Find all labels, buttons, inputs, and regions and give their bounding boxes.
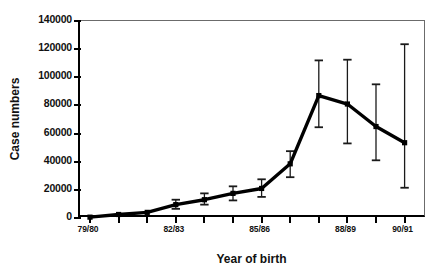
x-axis-tick-label: 82/83 [163, 224, 184, 234]
data-line [90, 96, 405, 218]
y-axis-tick [74, 189, 81, 191]
y-axis-tick [74, 48, 81, 50]
y-axis-tick-label: 20000 [44, 182, 72, 194]
x-axis-tick [232, 217, 234, 223]
y-axis-title: Case numbers [8, 77, 22, 160]
y-axis-tick [74, 76, 81, 78]
data-point-marker [402, 140, 407, 145]
y-axis-tick [74, 217, 81, 219]
error-bars-group [172, 44, 409, 209]
x-axis-tick [346, 217, 348, 223]
y-axis-tick-label: 0 [66, 210, 72, 222]
y-axis-tick-label: 100000 [38, 69, 72, 81]
data-point-marker [316, 93, 321, 98]
y-axis-tick [74, 161, 81, 163]
x-axis-tick [203, 217, 205, 223]
data-point-marker [230, 191, 235, 196]
y-axis-tick-label: 140000 [38, 13, 72, 25]
x-axis-tick [289, 217, 291, 223]
chart-figure: 020000400006000080000100000120000140000 … [0, 0, 435, 278]
data-point-marker [202, 197, 207, 202]
y-axis-tick [74, 20, 81, 22]
data-point-marker [288, 161, 293, 166]
y-axis-tick [74, 133, 81, 135]
y-axis-tick-label: 60000 [44, 126, 72, 138]
data-point-marker [173, 202, 178, 207]
x-axis-tick-label: 90/91 [392, 224, 413, 234]
data-point-marker [345, 101, 350, 106]
y-axis-title-holder: Case numbers [18, 20, 40, 217]
data-point-marker [259, 186, 264, 191]
y-axis-tick-label: 40000 [44, 154, 72, 166]
x-axis-tick [404, 217, 406, 223]
x-axis-tick [261, 217, 263, 223]
x-axis-tick [146, 217, 148, 223]
x-axis-tick [375, 217, 377, 223]
data-point-marker [373, 124, 378, 129]
x-axis-tick-labels: 79/8082/8385/8688/8990/91 [78, 224, 425, 240]
x-axis-tick [175, 217, 177, 223]
plot-area [78, 20, 425, 217]
y-axis-tick-label: 80000 [44, 97, 72, 109]
x-axis-tick-label: 88/89 [335, 224, 356, 234]
data-series-canvas [80, 21, 427, 218]
x-axis-tick [89, 217, 91, 223]
x-axis-tick [318, 217, 320, 223]
x-axis-tick [118, 217, 120, 223]
x-axis-tick-label: 79/80 [78, 224, 99, 234]
x-axis-title: Year of birth [78, 252, 425, 266]
y-axis-tick [74, 104, 81, 106]
data-point-marker [145, 210, 150, 215]
x-axis-tick-label: 85/86 [249, 224, 270, 234]
y-axis-tick-label: 120000 [38, 41, 72, 53]
